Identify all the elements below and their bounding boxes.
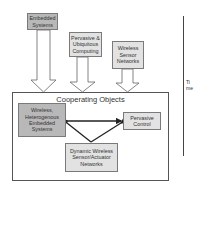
dynamic-wsan-box: Dynamic Wireless Sensor/Actuator Network…: [65, 143, 118, 172]
connector-pervasive-dynamic: [91, 123, 121, 142]
heterogenous-label-line4: Systems: [25, 126, 59, 132]
dynamic-wsan-label-line2: Sensor/Actuator: [70, 154, 113, 160]
time-label-line2: me: [186, 86, 193, 92]
connector-heterogenous-dynamic: [67, 123, 91, 142]
time-axis-label: Ti me: [186, 80, 193, 91]
pervasive-control-label-line2: Control: [130, 121, 154, 127]
pervasive-control-box: Pervasive Control: [123, 112, 161, 130]
dynamic-wsan-label-line3: Networks: [70, 161, 113, 167]
wireless-heterogenous-box: Wireless, Heterogenous Embedded Systems: [18, 103, 66, 137]
